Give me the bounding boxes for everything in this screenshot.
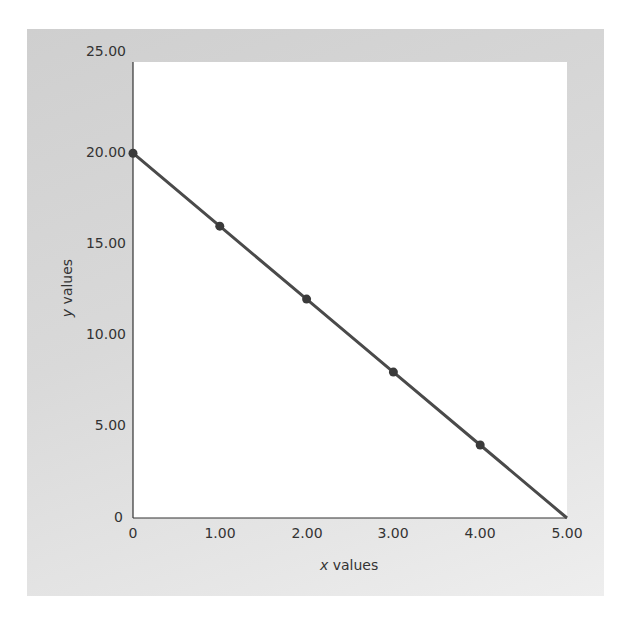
data-point-marker <box>215 222 224 231</box>
y-axis-label: y values <box>59 259 75 317</box>
data-point-marker <box>389 368 398 377</box>
data-point-marker <box>302 295 311 304</box>
x-tick-label: 3.00 <box>363 525 423 541</box>
x-tick-label: 4.00 <box>450 525 510 541</box>
y-tick-label: 15.00 <box>66 235 126 251</box>
y-tick-label: 5.00 <box>66 417 126 433</box>
x-tick-label: 5.00 <box>537 525 597 541</box>
x-tick-label: 1.00 <box>190 525 250 541</box>
y-tick-label: 20.00 <box>66 144 126 160</box>
y-tick-label: 25.00 <box>66 43 126 59</box>
data-point-marker <box>476 441 485 450</box>
y-tick-label: 0 <box>63 509 123 525</box>
x-tick-label: 0 <box>103 525 163 541</box>
y-tick-label: 10.00 <box>66 326 126 342</box>
series-line <box>133 153 567 518</box>
x-tick-label: 2.00 <box>277 525 337 541</box>
data-point-marker <box>129 149 138 158</box>
x-axis-label: x values <box>320 557 378 573</box>
